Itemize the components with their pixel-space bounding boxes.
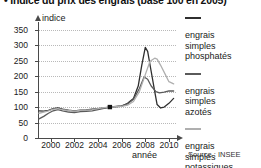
y-tick-label: 100	[4, 102, 28, 112]
gridline	[39, 61, 176, 62]
y-tick-mark	[35, 45, 39, 46]
legend-label-line: phosphatés	[185, 51, 261, 62]
x-tick-label: 2008	[136, 140, 155, 150]
y-tick-label: 150	[4, 87, 28, 97]
gridline	[39, 30, 176, 31]
legend-item[interactable]: engraissimplesazotés	[185, 68, 261, 118]
legend-item[interactable]: engraissimplesphosphatés	[185, 12, 261, 62]
x-tick-label: 2002	[65, 140, 84, 150]
y-tick-label: 50	[4, 118, 28, 128]
y-tick-mark	[35, 76, 39, 77]
legend-swatch-icon	[185, 17, 201, 19]
legend-label-line: simples	[185, 41, 261, 52]
y-tick-label: 350	[4, 25, 28, 35]
legend-label-line: engrais	[185, 30, 261, 41]
legend-swatch-icon	[185, 128, 201, 130]
x-tick-label: 2000	[41, 140, 60, 150]
y-axis-arrow-icon	[35, 15, 41, 21]
y-tick-mark	[35, 107, 39, 108]
y-axis-line	[38, 22, 39, 139]
title-bullet: •	[4, 0, 7, 6]
source-note: Source : INSEE	[188, 150, 241, 159]
x-tick-label: 2004	[89, 140, 108, 150]
x-tick-label: 2010	[159, 140, 178, 150]
legend-label: engraissimplesphosphatés	[185, 30, 261, 62]
y-tick-label: 300	[4, 40, 28, 50]
y-tick-label: 250	[4, 56, 28, 66]
legend-label-line: potassiques	[185, 162, 261, 168]
legend-label-line: engrais	[185, 86, 261, 97]
y-tick-mark	[35, 92, 39, 93]
y-tick-mark	[35, 138, 39, 139]
chart-figure: • Indice du prix des engrais (base 100 e…	[0, 0, 261, 168]
y-tick-mark	[35, 61, 39, 62]
gridline	[39, 92, 176, 93]
x-tick-label: 2006	[112, 140, 131, 150]
gridline	[39, 45, 176, 46]
chart-title: • Indice du prix des engrais (base 100 e…	[4, 0, 259, 6]
legend-item[interactable]: engraissimplespotassiques	[185, 123, 261, 168]
legend-label-line: azotés	[185, 107, 261, 118]
series-line	[39, 58, 174, 113]
series-line	[39, 47, 174, 111]
gridline	[39, 123, 176, 124]
x-axis-title: année	[132, 150, 157, 160]
legend-swatch-icon	[185, 73, 201, 75]
y-tick-mark	[35, 123, 39, 124]
gridline	[39, 107, 176, 108]
chart-legend: engraissimplesphosphatésengraissimplesaz…	[185, 12, 261, 168]
title-text: Indice du prix des engrais (base 100 en …	[10, 0, 226, 6]
y-axis-title: indice	[42, 13, 66, 23]
y-tick-label: 0	[4, 133, 28, 143]
x-axis-line	[38, 138, 177, 139]
series-line	[39, 77, 174, 119]
y-tick-label: 200	[4, 71, 28, 81]
legend-label: engraissimplesazotés	[185, 86, 261, 118]
legend-label-line: simples	[185, 96, 261, 107]
gridline	[39, 76, 176, 77]
y-tick-mark	[35, 30, 39, 31]
